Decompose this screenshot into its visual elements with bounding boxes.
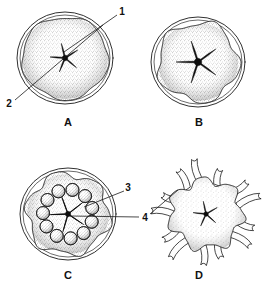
panel-d-tube-foot (236, 193, 261, 209)
panel-c-vesicle-shading (52, 185, 65, 198)
ref-number-3: 3 (125, 182, 131, 193)
panel-c-vesicle-shading (64, 232, 77, 245)
panel-c (12, 162, 128, 272)
ref-number-1: 1 (119, 6, 125, 17)
panel-caption-d: D (195, 269, 203, 281)
panel-c-vesicle-shading (37, 207, 50, 220)
panel-d-tube-foot (176, 169, 190, 191)
ref-number-4: 4 (142, 212, 148, 223)
panel-c-vesicle-shading (41, 194, 54, 207)
development-stages-diagram: 1 2 3 4 A B C D (0, 0, 264, 292)
figure-root: 1 2 3 4 A B C D (0, 0, 264, 292)
panel-d (150, 159, 262, 271)
panel-c-vesicle-shading (79, 190, 92, 203)
panel-c-vesicle-shading (85, 215, 98, 228)
panel-c-vesicle-shading (66, 183, 79, 196)
panel-d-tube-foot (214, 168, 223, 186)
panel-caption-b: B (195, 116, 203, 128)
ref-number-2: 2 (6, 98, 12, 109)
panel-caption-c: C (64, 269, 72, 281)
panel-caption-a: A (64, 116, 72, 128)
panel-c-vesicle-shading (77, 227, 90, 240)
panel-c-vesicle-shading (40, 220, 53, 233)
panel-c-vesicle-shading (50, 229, 63, 242)
panel-b (145, 10, 257, 118)
